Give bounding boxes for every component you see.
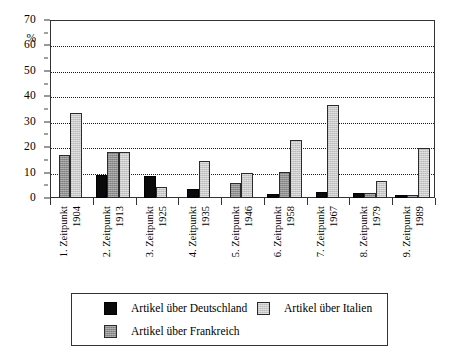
y-tick-label: 20: [24, 141, 36, 153]
x-axis-label: 6. Zeitpunkt1958: [272, 206, 298, 288]
x-axis-label-line2: 1935: [199, 206, 212, 288]
x-axis-label-line2: 1904: [71, 206, 84, 288]
x-axis-label-line2: 1989: [413, 206, 426, 288]
gridline: [51, 174, 434, 175]
gridline: [51, 97, 434, 98]
x-tick-mark: [392, 198, 393, 205]
legend-item-italien: Artikel über Italien: [257, 302, 372, 315]
x-axis-label-line1: 4. Zeitpunkt: [187, 206, 200, 288]
x-axis-label-line2: 1967: [328, 206, 341, 288]
gridlines: [51, 21, 434, 197]
y-tick-label: 10: [24, 167, 36, 179]
y-tick-mark-minor: [44, 109, 48, 110]
y-tick-label: 70: [24, 14, 36, 26]
x-axis-label-line1: 1. Zeitpunkt: [58, 206, 71, 288]
y-tick-mark-minor: [44, 134, 48, 135]
x-tick-mark: [435, 198, 436, 205]
bar-chart: % 010203040506070 1. Zeitpunkt19042. Zei…: [0, 0, 458, 361]
x-axis-label-line1: 3. Zeitpunkt: [144, 206, 157, 288]
y-tick-mark-minor: [44, 32, 48, 33]
legend-label-italien: Artikel über Italien: [284, 302, 372, 315]
x-tick-mark: [50, 198, 51, 205]
y-tick-label: 40: [24, 91, 36, 103]
y-axis: % 010203040506070: [0, 20, 44, 198]
x-tick-mark: [221, 198, 222, 205]
plot-area: [50, 20, 435, 198]
y-tick-label: 0: [30, 192, 36, 204]
legend-item-deutschland: Artikel über Deutschland: [104, 302, 247, 315]
x-axis-label: 8. Zeitpunkt1979: [358, 206, 384, 288]
x-axis-labels: 1. Zeitpunkt19042. Zeitpunkt19133. Zeitp…: [50, 206, 435, 288]
y-tick-label: 30: [24, 116, 36, 128]
legend: Artikel über Deutschland Artikel über It…: [71, 293, 388, 346]
legend-label-frankreich: Artikel über Frankreich: [131, 325, 240, 338]
x-axis-label-line2: 1979: [370, 206, 383, 288]
legend-swatch-italien: [257, 302, 270, 315]
y-tick-label: 50: [24, 65, 36, 77]
x-axis-label: 3. Zeitpunkt1925: [144, 206, 170, 288]
legend-item-frankreich: Artikel über Frankreich: [104, 325, 240, 338]
x-axis-label-line1: 5. Zeitpunkt: [230, 206, 243, 288]
y-tick-mark-minor: [44, 159, 48, 160]
gridline: [51, 148, 434, 149]
x-tick-mark: [307, 198, 308, 205]
legend-label-deutschland: Artikel über Deutschland: [131, 302, 247, 315]
x-tick-mark: [136, 198, 137, 205]
x-axis-label-line2: 1925: [156, 206, 169, 288]
x-axis-label-line1: 7. Zeitpunkt: [315, 206, 328, 288]
x-tick-mark: [178, 198, 179, 205]
y-tick-mark-minor: [44, 185, 48, 186]
x-axis-label-line2: 1913: [114, 206, 127, 288]
x-axis-label-line1: 8. Zeitpunkt: [358, 206, 371, 288]
x-tick-mark: [93, 198, 94, 205]
x-axis-label: 2. Zeitpunkt1913: [101, 206, 127, 288]
gridline: [51, 46, 434, 47]
y-tick-label: 60: [24, 40, 36, 52]
x-axis-label-line2: 1946: [242, 206, 255, 288]
x-axis-label-line1: 2. Zeitpunkt: [101, 206, 114, 288]
x-axis-label: 9. Zeitpunkt1989: [401, 206, 427, 288]
x-axis-ticks: [50, 198, 435, 205]
gridline: [51, 72, 434, 73]
x-tick-mark: [264, 198, 265, 205]
x-axis-label: 4. Zeitpunkt1935: [187, 206, 213, 288]
y-tick-mark-minor: [44, 83, 48, 84]
x-axis-label-line1: 9. Zeitpunkt: [401, 206, 414, 288]
gridline: [51, 123, 434, 124]
legend-swatch-deutschland: [104, 302, 117, 315]
x-axis-label-line1: 6. Zeitpunkt: [272, 206, 285, 288]
x-axis-label-line2: 1958: [285, 206, 298, 288]
x-axis-label: 7. Zeitpunkt1967: [315, 206, 341, 288]
x-axis-label: 5. Zeitpunkt1946: [230, 206, 256, 288]
legend-swatch-frankreich: [104, 325, 117, 338]
x-axis-label: 1. Zeitpunkt1904: [58, 206, 84, 288]
y-tick-mark-minor: [44, 58, 48, 59]
x-tick-mark: [349, 198, 350, 205]
